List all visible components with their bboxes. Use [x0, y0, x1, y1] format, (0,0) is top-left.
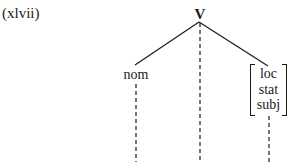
feature-list: loc stat subj [254, 66, 283, 113]
feature-loc: loc [254, 66, 283, 82]
branch-line-right [199, 22, 268, 66]
root-node-v: V [190, 7, 210, 22]
branch-line-left [135, 22, 199, 65]
feature-stat: stat [254, 82, 283, 98]
feature-subj: subj [254, 97, 283, 113]
feature-matrix: loc stat subj [250, 64, 287, 115]
right-bracket [282, 64, 287, 116]
node-nom: nom [119, 68, 153, 82]
